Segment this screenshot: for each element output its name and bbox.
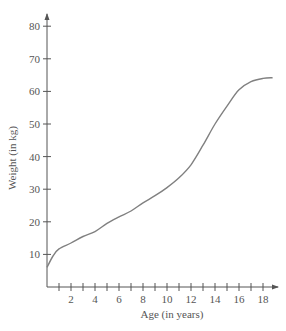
- x-tick-label: 4: [92, 293, 98, 305]
- y-tick-label: 60: [29, 85, 41, 97]
- y-tick-label: 80: [29, 20, 41, 32]
- y-tick-label: 50: [29, 118, 41, 130]
- x-tick-label: 16: [234, 293, 246, 305]
- x-axis-arrow-icon: [272, 285, 279, 290]
- x-axis-label: Age (in years): [141, 308, 204, 321]
- y-tick-label: 40: [29, 151, 41, 163]
- x-tick-label: 14: [210, 293, 222, 305]
- weight-curve: [47, 78, 273, 268]
- chart-svg: 102030405060708024681012141618 Age (in y…: [0, 0, 286, 331]
- x-tick-label: 12: [186, 293, 197, 305]
- y-tick-label: 20: [29, 216, 41, 228]
- weight-vs-age-chart: 102030405060708024681012141618 Age (in y…: [0, 0, 286, 331]
- y-tick-label: 10: [29, 248, 41, 260]
- y-axis-arrow-icon: [45, 13, 50, 20]
- y-tick-label: 30: [29, 183, 41, 195]
- x-tick-label: 8: [140, 293, 146, 305]
- x-tick-label: 2: [68, 293, 74, 305]
- y-tick-label: 70: [29, 53, 41, 65]
- axes: 102030405060708024681012141618: [29, 13, 279, 305]
- y-axis-label: Weight (in kg): [6, 126, 19, 190]
- x-tick-label: 18: [258, 293, 270, 305]
- x-tick-label: 6: [116, 293, 122, 305]
- x-tick-label: 10: [162, 293, 174, 305]
